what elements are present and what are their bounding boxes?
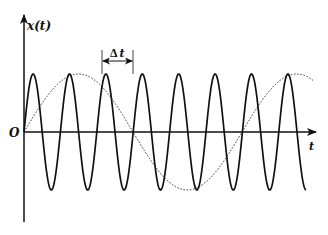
delta-t-variable: t (120, 47, 125, 60)
y-axis-label: x(t) (26, 19, 51, 33)
delta-t-annotation: Δ t (102, 46, 133, 74)
waveform-diagram: Δ t x(t) t O (0, 0, 328, 235)
delta-symbol: Δ (110, 46, 118, 60)
x-axis-label: t (309, 140, 314, 153)
origin-label: O (9, 126, 20, 140)
